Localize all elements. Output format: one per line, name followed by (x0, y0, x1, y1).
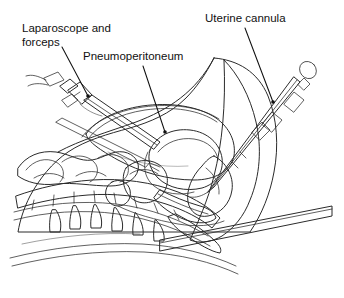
laparoscopy-illustration: Laparoscope and forceps Pneumoperitoneum… (0, 0, 344, 298)
table-edge-highlight (160, 209, 332, 243)
leader-lines (62, 28, 275, 134)
label-laparoscope-and-forceps-line1: Laparoscope and (22, 22, 111, 34)
bowel-coil-3 (98, 155, 128, 182)
drape-line-3 (22, 233, 140, 244)
leader-uterine-cannula-dot (271, 100, 275, 104)
drape-lines (10, 233, 238, 274)
laparoscope-eyepiece (44, 72, 64, 86)
spinous-processes (50, 205, 165, 241)
light-cable (26, 75, 46, 80)
trocar-housing (68, 82, 92, 104)
bowel-coil-5 (76, 172, 106, 177)
stopcock-stem (74, 92, 80, 96)
leader-laparoscope-dot (86, 94, 90, 98)
stopcock-knob (62, 94, 78, 107)
cannula-body (284, 92, 304, 112)
rectum (188, 156, 233, 216)
vertebral-column (14, 180, 221, 254)
pneumoperitoneum-cavity (82, 105, 234, 181)
thigh (190, 60, 259, 242)
uterine-cannula-instrument (190, 58, 320, 197)
uterus-fundus-fold (158, 139, 218, 160)
abdominal-wall (18, 58, 277, 232)
label-uterine-cannula: Uterine cannula (205, 12, 286, 24)
label-laparoscope-and-forceps-line2: forceps (22, 36, 60, 48)
fallopian-tube (145, 152, 194, 194)
bowel-coil-4 (34, 174, 64, 179)
bowel-coil-2 (62, 156, 97, 182)
torso-group (18, 58, 277, 242)
operating-table (160, 206, 332, 251)
bowel-coil-1 (26, 160, 63, 182)
cannula-handle-neck (298, 78, 310, 90)
cannula-handle-bulb (296, 58, 320, 82)
labels-group: Laparoscope and forceps Pneumoperitoneum… (22, 12, 286, 62)
drape-line-1 (10, 244, 236, 266)
cannula-tip (190, 192, 208, 197)
drape-line-2 (12, 252, 238, 274)
label-pneumoperitoneum: Pneumoperitoneum (83, 50, 183, 62)
laparoscope-and-forceps-instrument (26, 72, 160, 171)
leader-uterine-cannula (245, 28, 273, 102)
leader-pneumoperitoneum-dot (163, 130, 167, 134)
illustration-canvas: Laparoscope and forceps Pneumoperitoneum… (0, 0, 344, 298)
light-cable-2 (28, 84, 48, 86)
table-surface (160, 206, 332, 251)
